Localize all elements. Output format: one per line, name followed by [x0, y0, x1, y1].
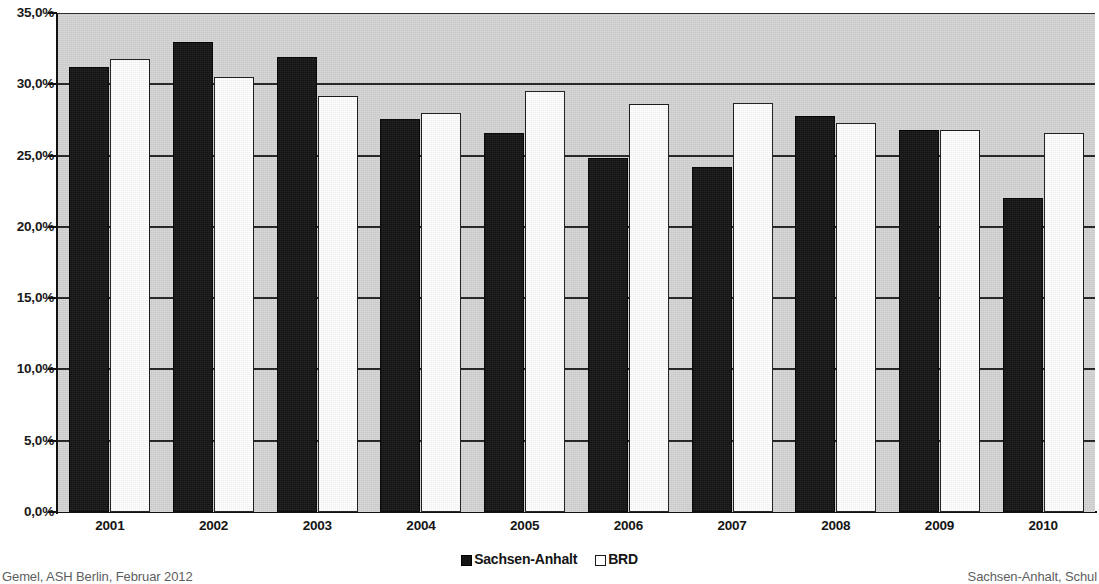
bar-brd-2003 [318, 96, 358, 512]
bar-sachsen-anhalt-2010 [1003, 198, 1043, 512]
legend-entry: Sachsen-Anhalt [461, 551, 577, 567]
bar-sachsen-anhalt-2005 [484, 133, 524, 512]
bar-sachsen-anhalt-2002 [173, 42, 213, 512]
x-axis-tick-label: 2007 [717, 516, 746, 536]
y-axis-tick-mark [48, 226, 57, 228]
bar-brd-2002 [214, 77, 254, 512]
y-axis-tick-label: 30,0% [0, 78, 54, 92]
y-axis-tick-label: 0,0% [0, 505, 54, 519]
x-axis-tick-label: 2010 [1029, 516, 1058, 536]
bar-brd-2007 [733, 103, 773, 512]
x-axis-tick-label: 2005 [510, 516, 539, 536]
y-axis-tick-label: 5,0% [0, 434, 54, 448]
y-axis-tick-mark [48, 83, 57, 85]
bar-group [69, 13, 150, 512]
bar-group [173, 13, 254, 512]
bar-sachsen-anhalt-2003 [277, 57, 317, 512]
y-axis-tick-mark [48, 440, 57, 442]
chart-legend: Sachsen-AnhaltBRD [0, 551, 1099, 567]
bar-brd-2010 [1044, 133, 1084, 512]
bar-sachsen-anhalt-2004 [380, 119, 420, 512]
legend-label: Sachsen-Anhalt [474, 551, 577, 567]
x-axis-tick-label: 2004 [406, 516, 435, 536]
x-axis-tick-label: 2002 [199, 516, 228, 536]
legend-swatch-light [595, 555, 606, 566]
x-axis-tick-label: 2008 [821, 516, 850, 536]
bar-brd-2008 [836, 123, 876, 512]
plot-area [58, 13, 1095, 512]
bar-group [484, 13, 565, 512]
y-axis-tick-label: 35,0% [0, 6, 54, 20]
bar-group [380, 13, 461, 512]
legend-label: BRD [608, 551, 638, 567]
x-axis-tick-label: 2003 [303, 516, 332, 536]
bar-group [1003, 13, 1084, 512]
bar-sachsen-anhalt-2001 [69, 67, 109, 512]
bar-group [795, 13, 876, 512]
bar-group [277, 13, 358, 512]
x-axis-category-labels: 2001200220032004200520062007200820092010 [58, 516, 1095, 538]
y-axis-tick-label: 10,0% [0, 363, 54, 377]
bar-group [692, 13, 773, 512]
bar-brd-2001 [110, 59, 150, 512]
bar-group [588, 13, 669, 512]
bar-brd-2004 [421, 113, 461, 512]
bar-brd-2005 [525, 91, 565, 512]
bar-sachsen-anhalt-2008 [795, 116, 835, 512]
bar-group [899, 13, 980, 512]
x-axis-tick-label: 2001 [95, 516, 124, 536]
x-axis-tick-label: 2006 [614, 516, 643, 536]
y-axis-tick-mark [48, 297, 57, 299]
x-axis-tick-label: 2009 [925, 516, 954, 536]
y-axis-tick-label: 15,0% [0, 291, 54, 305]
y-axis-tick-label: 25,0% [0, 149, 54, 163]
y-axis-tick-labels: 0,0%5,0%10,0%15,0%20,0%25,0%30,0%35,0% [0, 0, 54, 520]
legend-swatch-dark [461, 555, 472, 566]
y-axis-tick-mark [48, 155, 57, 157]
y-axis-tick-mark [48, 368, 57, 370]
bar-sachsen-anhalt-2007 [692, 167, 732, 512]
footer-source-right: Sachsen-Anhalt, Schul [968, 569, 1097, 584]
bar-sachsen-anhalt-2009 [899, 130, 939, 512]
bar-brd-2006 [629, 104, 669, 512]
legend-entry: BRD [595, 551, 638, 567]
y-axis-tick-mark [48, 12, 57, 14]
bar-brd-2009 [940, 130, 980, 512]
y-axis-tick-label: 20,0% [0, 220, 54, 234]
y-axis-tick-mark [48, 511, 57, 513]
footer-credit-left: Gemel, ASH Berlin, Februar 2012 [2, 569, 193, 584]
bar-sachsen-anhalt-2006 [588, 158, 628, 512]
